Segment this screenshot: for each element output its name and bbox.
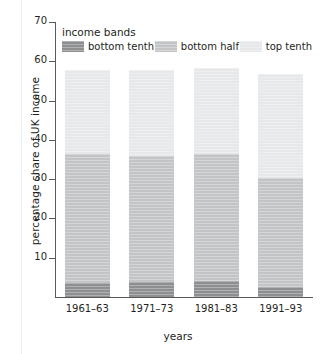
legend-swatch-icon [62, 41, 84, 52]
y-tick-label: 50 [19, 95, 47, 105]
legend-item-top-tenth[interactable]: top tenth [240, 41, 312, 52]
y-tick-label: 30 [19, 173, 47, 183]
legend-label: bottom half [181, 41, 239, 52]
bar-column[interactable] [194, 22, 239, 297]
bar-segment-bottom-half[interactable] [65, 154, 110, 283]
legend-label: bottom tenth [88, 41, 154, 52]
bar-segment-top-tenth[interactable] [258, 74, 303, 179]
y-tick: 60 [0, 61, 47, 62]
bar-segment-top-tenth[interactable] [129, 70, 174, 156]
legend-swatch-icon [240, 41, 262, 52]
y-tick: 40 [0, 140, 47, 141]
bar-segment-bottom-tenth[interactable] [194, 281, 239, 297]
bar-column[interactable] [65, 22, 110, 297]
bar-segment-top-tenth[interactable] [194, 68, 239, 154]
x-axis-line [55, 297, 313, 298]
legend: income bands bottom tenthbottom halftop … [62, 26, 312, 52]
bar-segment-bottom-tenth[interactable] [65, 283, 110, 297]
legend-entries: bottom tenthbottom halftop tenth [62, 41, 312, 52]
legend-title: income bands [62, 26, 312, 38]
y-tick-label: 60 [19, 55, 47, 65]
y-tick: 30 [0, 179, 47, 180]
legend-item-bottom-half[interactable]: bottom half [155, 41, 239, 52]
bar-column[interactable] [129, 22, 174, 297]
y-tick: 20 [0, 218, 47, 219]
chart-figure: percentage share of UK income 1020304050… [0, 0, 324, 354]
bar-segment-bottom-tenth[interactable] [129, 282, 174, 297]
bar-segment-bottom-tenth[interactable] [258, 287, 303, 297]
y-tick-label: 10 [19, 252, 47, 262]
y-tick-label: 20 [19, 212, 47, 222]
bar-segment-bottom-half[interactable] [129, 156, 174, 283]
y-axis-title: percentage share of UK income [29, 41, 41, 281]
bar-column[interactable] [258, 22, 303, 297]
x-axis-title: years [48, 330, 308, 342]
bar-segment-bottom-half[interactable] [258, 178, 303, 287]
y-tick: 50 [0, 101, 47, 102]
y-tick: 10 [0, 258, 47, 259]
legend-item-bottom-tenth[interactable]: bottom tenth [62, 41, 154, 52]
y-tick-label: 70 [19, 16, 47, 26]
bar-segment-top-tenth[interactable] [65, 70, 110, 155]
bar-plot-area [55, 22, 313, 297]
bar-segment-bottom-half[interactable] [194, 154, 239, 281]
y-tick-label: 40 [19, 134, 47, 144]
y-tick: 70 [0, 22, 47, 23]
legend-label: top tenth [266, 41, 312, 52]
x-tick-label: 1991–93 [241, 303, 321, 314]
legend-swatch-icon [155, 41, 177, 52]
